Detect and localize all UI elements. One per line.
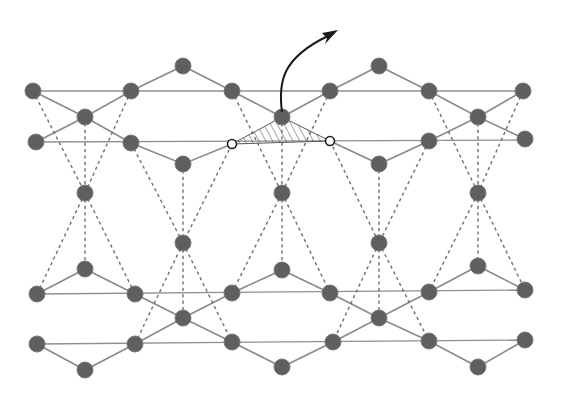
- atom: [515, 83, 531, 99]
- atom: [29, 336, 45, 352]
- atom-ejection-arrow-icon: [281, 30, 338, 112]
- atom: [421, 333, 437, 349]
- atom: [29, 286, 45, 302]
- atom: [28, 134, 44, 150]
- atom: [421, 133, 437, 149]
- lattice-diagram: [0, 0, 567, 394]
- atom: [25, 83, 41, 99]
- atom: [470, 359, 486, 375]
- atom: [77, 261, 93, 277]
- atom: [517, 131, 533, 147]
- atom: [224, 334, 240, 350]
- atom: [322, 83, 338, 99]
- vacancy-site: [228, 140, 237, 149]
- atom: [517, 332, 533, 348]
- bottom-layer-bonds: [37, 266, 525, 370]
- atom: [470, 258, 486, 274]
- atom: [470, 109, 486, 125]
- atom: [127, 336, 143, 352]
- atom: [175, 235, 191, 251]
- atom: [123, 83, 139, 99]
- atom: [224, 285, 240, 301]
- atom: [175, 156, 191, 172]
- atom: [517, 282, 533, 298]
- atom: [371, 310, 387, 326]
- atom: [274, 185, 290, 201]
- atom: [123, 135, 139, 151]
- atom: [127, 286, 143, 302]
- atom: [421, 83, 437, 99]
- atom: [371, 156, 387, 172]
- atom: [175, 58, 191, 74]
- vacancy-site: [326, 137, 335, 146]
- atom: [77, 185, 93, 201]
- atom: [224, 83, 240, 99]
- atom: [274, 262, 290, 278]
- atom: [175, 310, 191, 326]
- atom: [322, 285, 338, 301]
- atom: [77, 109, 93, 125]
- atom: [325, 334, 341, 350]
- atom: [274, 359, 290, 375]
- atom: [77, 362, 93, 378]
- atom: [371, 235, 387, 251]
- atom: [421, 284, 437, 300]
- atom: [371, 58, 387, 74]
- atom: [470, 185, 486, 201]
